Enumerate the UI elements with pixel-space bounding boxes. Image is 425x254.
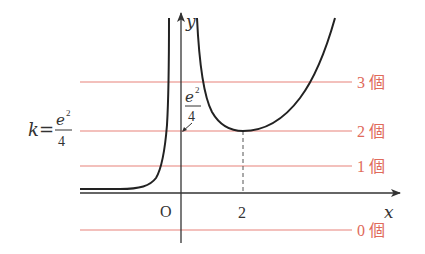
curve-right-branch	[197, 18, 335, 131]
svg-text:2: 2	[66, 108, 71, 118]
svg-text:2: 2	[195, 85, 200, 95]
count-label-2: 2 個	[357, 123, 385, 140]
k-lines	[80, 82, 352, 230]
axis-fraction-label: e 2 4	[182, 85, 201, 132]
y-axis-label: y	[185, 11, 196, 31]
svg-text:e: e	[56, 111, 65, 129]
count-label-3: 3 個	[357, 74, 385, 91]
svg-text:4: 4	[58, 134, 65, 149]
count-label-0: 0 個	[357, 222, 385, 239]
svg-text:e: e	[185, 88, 194, 106]
x-tick-2: 2	[238, 204, 246, 221]
count-label-1: 1 個	[357, 158, 385, 175]
function-graph: y x O 2 e 2 4 k= e 2 4 3 個 2 個 1 個 0 個	[0, 0, 425, 254]
svg-text:k=: k=	[28, 119, 54, 140]
curve-left-branch	[80, 18, 169, 189]
svg-text:4: 4	[188, 109, 195, 124]
x-axis-label: x	[384, 202, 394, 222]
origin-label: O	[160, 203, 172, 220]
k-value-label: k= e 2 4	[28, 108, 72, 149]
